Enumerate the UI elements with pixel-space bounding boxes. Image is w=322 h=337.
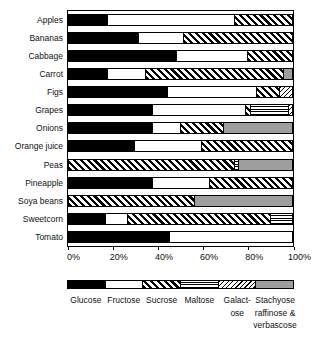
- bar-segment-fructose: [107, 15, 234, 25]
- bar-row-cabbage: [68, 50, 293, 62]
- category-label-onions: Onions: [0, 122, 63, 134]
- bar-segment-glucose: [69, 87, 167, 97]
- bar-segment-sucrose: [127, 214, 270, 224]
- legend-label-line: raffinose &: [253, 307, 296, 320]
- plot-area: [67, 10, 294, 247]
- bar-segment-glucose: [69, 105, 152, 115]
- bar-row-sweetcorn: [68, 213, 293, 225]
- bar-segment-stachyose: [238, 160, 292, 170]
- x-tick-label: 0%: [67, 252, 80, 262]
- category-label-cabbage: Cabbage: [0, 50, 63, 62]
- bar-segment-maltose: [270, 214, 292, 224]
- bar-row-grapes: [68, 104, 293, 116]
- legend-label-fructose: Fructose: [107, 294, 140, 307]
- legend-label-line: Glucose: [70, 294, 101, 307]
- bar-row-onions: [68, 122, 293, 134]
- legend-label-sucrose: Sucrose: [146, 294, 177, 307]
- bar-segment-fructose: [105, 214, 127, 224]
- x-tick: [203, 247, 204, 250]
- legend-label-stachyose: Stachyoseraffinose &verbascose: [253, 294, 296, 332]
- x-tick-label: 40%: [155, 252, 173, 262]
- category-label-pineapple: Pineapple: [0, 177, 63, 189]
- y-axis-category-labels: ApplesBananasCabbageCarrotFigsGrapesOnio…: [0, 11, 63, 246]
- x-tick-label: 20%: [110, 252, 128, 262]
- x-tick-label: 60%: [200, 252, 218, 262]
- legend-label-line: Maltose: [185, 294, 215, 307]
- x-tick: [68, 247, 69, 250]
- category-label-orange-juice: Orange juice: [0, 140, 63, 152]
- bar-segment-glucose: [69, 232, 169, 242]
- legend-swatch-fructose: [105, 281, 143, 288]
- x-tick-label: 100%: [288, 252, 311, 262]
- bar-segment-fructose: [152, 105, 246, 115]
- category-label-tomato: Tomato: [0, 231, 63, 243]
- bar-segment-fructose: [138, 33, 183, 43]
- legend-swatch-stachyose: [255, 281, 293, 288]
- bar-row-bananas: [68, 32, 293, 44]
- legend-bar: [67, 280, 294, 289]
- legend-label-maltose: Maltose: [185, 294, 215, 307]
- category-label-grapes: Grapes: [0, 104, 63, 116]
- x-tick: [248, 247, 249, 250]
- bar-segment-glucose: [69, 15, 107, 25]
- bar-segment-fructose: [134, 141, 201, 151]
- category-label-sweetcorn: Sweetcorn: [0, 213, 63, 225]
- bar-segment-sucrose: [69, 160, 234, 170]
- bar-segment-sucrose: [145, 69, 283, 79]
- legend-swatch-glucose: [68, 281, 105, 288]
- x-tick: [294, 247, 295, 250]
- bar-segment-glucose: [69, 33, 138, 43]
- bar-segment-glucose: [69, 141, 134, 151]
- bar-segment-glucose: [69, 178, 152, 188]
- bar-row-apples: [68, 14, 293, 26]
- x-tick: [113, 247, 114, 250]
- legend-label-galactose: Galact-ose: [224, 294, 251, 319]
- bar-row-soya-beans: [68, 195, 293, 207]
- bar-segment-sucrose: [180, 123, 222, 133]
- bar-segment-sucrose: [183, 33, 292, 43]
- bar-segment-fructose: [107, 69, 145, 79]
- bar-segment-maltose: [250, 105, 288, 115]
- category-label-peas: Peas: [0, 159, 63, 171]
- legend-label-glucose: Glucose: [70, 294, 101, 307]
- legend-label-line: Fructose: [107, 294, 140, 307]
- bar-segment-fructose: [152, 123, 181, 133]
- legend-label-line: verbascose: [253, 319, 296, 332]
- legend-swatch-maltose: [180, 281, 218, 288]
- bar-segment-fructose: [176, 51, 247, 61]
- legend-label-line: Stachyose: [253, 294, 296, 307]
- bar-segment-stachyose: [223, 123, 292, 133]
- category-label-figs: Figs: [0, 86, 63, 98]
- bar-segment-fructose: [152, 178, 210, 188]
- bar-segment-sucrose: [234, 15, 292, 25]
- bar-row-orange-juice: [68, 140, 293, 152]
- bar-segment-sucrose: [256, 87, 278, 97]
- bar-segment-glucose: [69, 123, 152, 133]
- bar-segment-galactose: [288, 105, 292, 115]
- bar-row-figs: [68, 86, 293, 98]
- bar-row-peas: [68, 159, 293, 171]
- bar-row-pineapple: [68, 177, 293, 189]
- legend-label-line: Sucrose: [146, 294, 177, 307]
- bar-segment-sucrose: [209, 178, 292, 188]
- bar-segment-stachyose: [283, 69, 292, 79]
- bar-segment-sucrose: [69, 196, 194, 206]
- bar-segment-fructose: [169, 232, 292, 242]
- legend-swatch-sucrose: [142, 281, 180, 288]
- bar-segment-glucose: [69, 214, 105, 224]
- legend-label-line: ose: [224, 307, 251, 320]
- x-tick-label: 80%: [245, 252, 263, 262]
- legend-swatch-galactose: [218, 281, 256, 288]
- x-tick: [158, 247, 159, 250]
- bar-segment-fructose: [167, 87, 256, 97]
- legend-label-line: Galact-: [224, 294, 251, 307]
- bar-segment-glucose: [69, 69, 107, 79]
- bar-segment-stachyose: [194, 196, 292, 206]
- bar-segment-galactose: [279, 87, 292, 97]
- category-label-soya-beans: Soya beans: [0, 195, 63, 207]
- category-label-apples: Apples: [0, 14, 63, 26]
- bar-segment-sucrose: [247, 51, 292, 61]
- bar-row-tomato: [68, 231, 293, 243]
- category-label-bananas: Bananas: [0, 32, 63, 44]
- bar-segment-sucrose: [201, 141, 292, 151]
